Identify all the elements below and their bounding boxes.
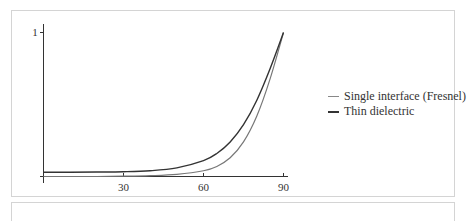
- legend-label-fresnel: Single interface (Fresnel): [344, 89, 466, 104]
- legend-swatch-fresnel: [328, 96, 339, 97]
- legend: Single interface (Fresnel) Thin dielectr…: [328, 89, 466, 119]
- x-tick-label-60: 60: [198, 181, 210, 193]
- legend-item-fresnel: Single interface (Fresnel): [328, 89, 466, 104]
- x-tick-label-30: 30: [118, 181, 130, 193]
- legend-item-thin-dielectric: Thin dielectric: [328, 104, 466, 119]
- legend-swatch-thin-dielectric: [328, 111, 339, 113]
- y-tick-label: 1: [32, 26, 38, 38]
- series-fresnel-line: [44, 33, 284, 177]
- x-tick-label-90: 90: [278, 181, 290, 193]
- legend-label-thin-dielectric: Thin dielectric: [344, 104, 414, 119]
- series-thin-dielectric-line: [44, 33, 284, 173]
